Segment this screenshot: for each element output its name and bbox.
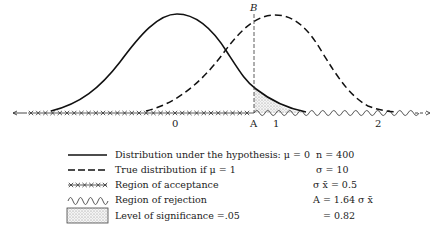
param-n: n = 400	[316, 149, 354, 161]
param-a-formula: A = 1.64 σ x̄	[313, 194, 373, 206]
tick-label-a: A	[250, 118, 257, 130]
legend-dotted-box-icon	[67, 208, 108, 223]
param-a-value: = 0.82	[323, 210, 355, 222]
point-label-b: B	[250, 2, 257, 14]
param-sigma-xbar: σ x̄ = 0.5	[313, 179, 357, 191]
hypothesis-test-diagram: B 0 A 1 2 Distribution under the hypothe…	[0, 0, 439, 233]
diagram-canvas	[0, 0, 439, 233]
legend-text-significance: Level of significance =.05	[115, 210, 240, 222]
legend-text-acceptance: Region of acceptance	[115, 179, 219, 191]
legend-symbols	[67, 155, 108, 223]
legend-text-hypothesis: Distribution under the hypothesis: μ = 0	[115, 149, 310, 161]
significance-region	[254, 87, 306, 113]
true-distribution-curve	[146, 15, 395, 112]
legend-text-rejection: Region of rejection	[115, 194, 207, 206]
legend-wave-line-icon	[68, 198, 108, 205]
tick-label-1: 1	[273, 118, 279, 130]
tick-label-0: 0	[172, 118, 178, 130]
legend-text-true: True distribution if μ = 1	[115, 164, 236, 176]
param-sigma: σ = 10	[316, 164, 349, 176]
tick-label-2: 2	[375, 118, 381, 130]
